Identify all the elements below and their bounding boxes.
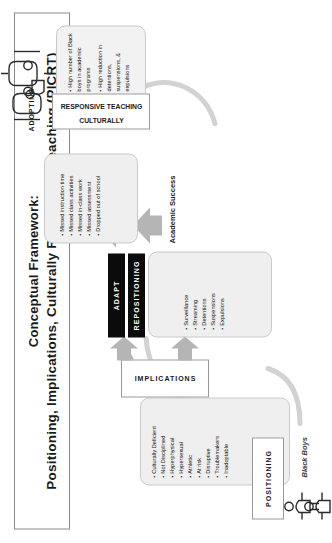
trait-item: Disruptive [204,403,213,477]
positioning-traits-list: Culturally Deficient Not Disciplined Hyp… [150,403,231,477]
practice-item: Surveillance [182,257,191,329]
practice-item: Expulsions [218,257,227,329]
trait-item: At risk [195,403,204,477]
outcome-item: Missed class activities [67,159,76,235]
black-boys-label: Black Boys [300,437,309,477]
implication-outcomes-list: Missed instruction time Missed class act… [58,159,103,235]
crt-outcome-item: High number of Black boys in academic pr… [66,31,93,91]
adopting-stage-label: ADOPTING [28,87,35,131]
trait-item: Inadoptable [222,403,231,477]
practice-item: Suspensions [209,257,218,329]
crt-label-line-2: RESPONSIVE TEACHING [60,102,142,109]
outcome-item: Missed instruction time [58,159,67,235]
implication-practices-list: Surveillance Streaming Detentions Suspen… [182,257,227,329]
crt-label-line-1: CULTURALLY [79,117,124,124]
adapt-bar: ADAPT [108,253,125,337]
adapt-label: ADAPT [113,280,120,310]
outcome-item: Missed in-class work [76,159,85,235]
positioning-stage-label: POSITIONING [265,450,272,507]
implications-stage-box: IMPLICATIONS [121,359,209,397]
outcome-item: Missed assessment [85,159,94,235]
academic-success-label: Academic Success [168,175,177,243]
practice-item: Streaming [191,257,200,329]
implications-stage-label: IMPLICATIONS [134,375,196,382]
positioning-stage-box: POSITIONING [252,437,284,519]
repositioning-label: REPOSITIONING [133,260,140,330]
crt-outcome-item: High reduction in detentions, suspension… [96,31,132,91]
trait-item: Troublemakers [213,403,222,477]
trait-item: Not Disciplined [159,403,168,477]
repositioning-bar: REPOSITIONING [128,253,145,337]
diagram-canvas: Conceptual Framework: Positioning, Impli… [0,0,332,543]
crt-outcomes-list: High number of Black boys in academic pr… [66,31,132,91]
trait-item: Culturally Deficient [150,403,159,477]
trait-item: Athletic [186,403,195,477]
crt-stage-box: CULTURALLY RESPONSIVE TEACHING [52,93,150,129]
title-line-1: Conceptual Framework: [26,194,41,346]
practice-item: Detentions [200,257,209,329]
trait-item: Hypersexual [177,403,186,477]
outcome-item: Dropped out of school [94,159,103,235]
trait-item: Hyperphysical [168,403,177,477]
